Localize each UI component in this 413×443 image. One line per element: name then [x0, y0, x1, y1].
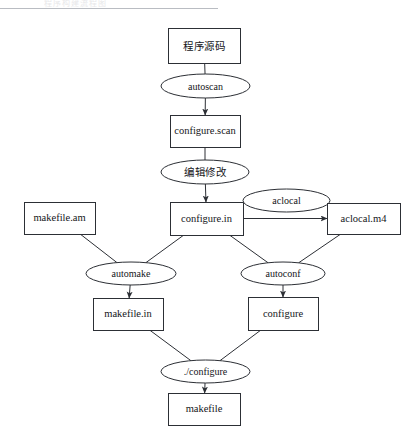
- edge-configure-to-run_configure: [220, 330, 261, 361]
- edge-edit-to-configure_in: [205, 184, 206, 202]
- node-makefile[interactable]: [169, 394, 241, 426]
- edge-aclocal_m4-to-autoconf: [299, 234, 341, 263]
- node-makefile_in[interactable]: [94, 299, 164, 331]
- node-configure[interactable]: [249, 298, 319, 331]
- node-autoconf[interactable]: [241, 262, 325, 285]
- edge-makefile_in-to-run_configure: [150, 330, 191, 361]
- node-aclocal_m4[interactable]: [328, 204, 401, 235]
- edge-configure_in-to-autoconf: [229, 235, 268, 263]
- flowchart-canvas: [0, 0, 413, 443]
- edge-configure_in-to-automake: [146, 235, 184, 263]
- edge-automake-to-makefile_in: [129, 285, 130, 298]
- node-run_configure[interactable]: [161, 360, 250, 383]
- node-src[interactable]: [169, 29, 241, 64]
- diagram-page: 程序构建流程图 程序源码autoscanconfigure.scan编辑修改ma…: [0, 0, 413, 443]
- node-aclocal[interactable]: [243, 189, 330, 212]
- node-layer: [25, 29, 401, 426]
- node-automake[interactable]: [86, 262, 176, 285]
- node-edit[interactable]: [161, 160, 249, 184]
- edge-makefile_am-to-automake: [80, 234, 117, 263]
- node-configure_in[interactable]: [171, 203, 244, 236]
- node-makefile_am[interactable]: [25, 203, 96, 235]
- node-configure_scan[interactable]: [171, 116, 241, 148]
- node-autoscan[interactable]: [161, 74, 250, 98]
